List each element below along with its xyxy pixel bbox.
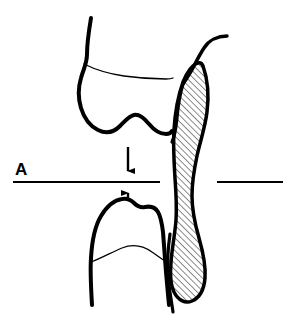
- anatomical-line-diagram: A: [0, 0, 298, 336]
- figure-container: A: [0, 0, 298, 336]
- lower-vertebra-outline: [91, 199, 169, 305]
- section-label-a: A: [15, 160, 27, 179]
- lower-vertebral-body: [91, 199, 169, 305]
